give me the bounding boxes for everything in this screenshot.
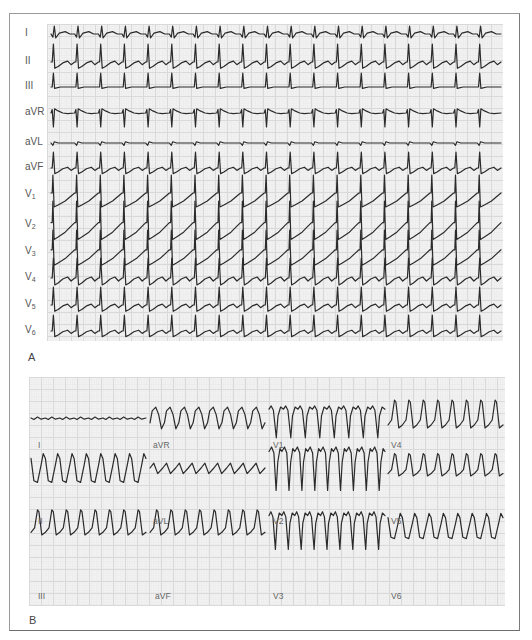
lead-label-a-v1: V1 <box>25 189 36 200</box>
lead-label-b-v4: V4 <box>391 441 401 450</box>
lead-label-b-ii: II <box>38 517 43 526</box>
trace-b-lead-v3 <box>269 512 385 550</box>
lead-label-base: aVF <box>25 161 43 172</box>
lead-label-base: aVL <box>25 136 43 147</box>
lead-label-base: V <box>25 298 32 309</box>
trace-b-lead-ii <box>31 454 146 483</box>
trace-b-lead-i <box>31 417 146 419</box>
trace-b-lead-v4 <box>388 400 503 428</box>
trace-b-lead-avl <box>150 463 265 473</box>
trace-b-lead-iii <box>31 510 146 535</box>
lead-label-a-avf: aVF <box>25 162 43 172</box>
lead-label-subscript: 1 <box>32 193 36 200</box>
lead-label-a-v6: V6 <box>25 325 36 336</box>
lead-label-a-v5: V5 <box>25 299 36 310</box>
lead-label-base: V <box>25 271 32 282</box>
trace-a-lead-v5 <box>51 287 501 311</box>
trace-a-lead-iii <box>51 73 501 88</box>
lead-label-a-v4: V4 <box>25 272 36 283</box>
lead-label-b-avl: aVL <box>153 517 168 526</box>
lead-label-base: V <box>25 218 32 229</box>
lead-label-subscript: 4 <box>32 276 36 283</box>
ecg-traces <box>0 0 532 640</box>
trace-a-lead-v6 <box>51 315 501 337</box>
panel-b-letter: B <box>29 614 36 626</box>
lead-label-b-v2: V2 <box>273 517 283 526</box>
lead-label-a-ii: II <box>25 56 31 66</box>
trace-b-lead-avr <box>150 407 265 429</box>
lead-label-a-v3: V3 <box>25 246 36 257</box>
trace-a-lead-v4 <box>51 258 501 285</box>
lead-label-subscript: 5 <box>32 303 36 310</box>
lead-label-a-avl: aVL <box>25 137 43 147</box>
lead-label-base: aVR <box>25 106 44 117</box>
lead-label-b-avf: aVF <box>155 592 171 601</box>
lead-label-subscript: 3 <box>32 250 36 257</box>
trace-b-lead-v5 <box>388 454 503 476</box>
lead-label-b-iii: III <box>38 592 45 601</box>
lead-label-base: II <box>25 55 31 66</box>
trace-b-lead-v1 <box>269 406 385 438</box>
lead-label-b-v5: V5 <box>391 517 401 526</box>
lead-label-base: V <box>25 245 32 256</box>
lead-label-b-i: I <box>38 441 40 450</box>
lead-label-b-avr: aVR <box>153 441 170 450</box>
trace-b-lead-v2 <box>269 447 385 491</box>
trace-a-lead-avl <box>51 142 501 146</box>
trace-a-lead-avr <box>51 109 501 127</box>
trace-b-lead-v6 <box>388 513 503 538</box>
lead-label-base: I <box>25 27 28 38</box>
trace-a-lead-i <box>51 26 501 38</box>
lead-label-base: V <box>25 324 32 335</box>
lead-label-a-iii: III <box>25 81 33 91</box>
lead-label-a-i: I <box>25 28 28 38</box>
lead-label-subscript: 2 <box>32 223 36 230</box>
panel-a-letter: A <box>28 351 35 363</box>
trace-a-lead-avf <box>51 152 501 174</box>
lead-label-subscript: 6 <box>32 329 36 336</box>
trace-a-lead-v3 <box>51 230 501 265</box>
lead-label-base: III <box>25 80 33 91</box>
lead-label-a-avr: aVR <box>25 107 44 117</box>
lead-label-b-v1: V1 <box>273 441 283 450</box>
lead-label-base: V <box>25 188 32 199</box>
lead-label-a-v2: V2 <box>25 219 36 230</box>
trace-a-lead-v1 <box>51 175 501 207</box>
lead-label-b-v6: V6 <box>391 592 401 601</box>
lead-label-b-v3: V3 <box>273 592 283 601</box>
trace-a-lead-ii <box>51 44 501 68</box>
